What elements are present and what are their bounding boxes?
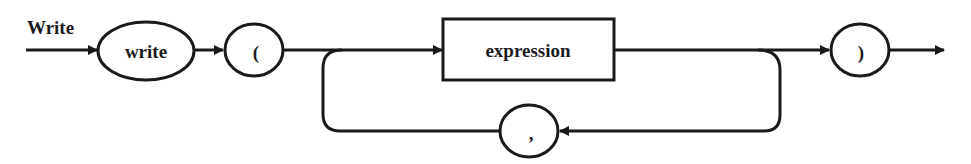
diagram-title: Write bbox=[27, 17, 74, 38]
node-expression: expression bbox=[443, 19, 614, 80]
node-comma: , bbox=[500, 105, 558, 157]
loop-return-path bbox=[323, 50, 500, 131]
node-rparen: ) bbox=[831, 24, 889, 76]
loop-back-path bbox=[560, 50, 780, 131]
node-write-label: write bbox=[125, 41, 167, 62]
node-expression-label: expression bbox=[485, 40, 571, 61]
node-lparen: ( bbox=[225, 24, 283, 76]
node-write: write bbox=[98, 22, 194, 80]
node-lparen-label: ( bbox=[253, 42, 259, 64]
node-rparen-label: ) bbox=[858, 42, 864, 64]
syntax-diagram: Write write ( expression , ) bbox=[0, 0, 971, 164]
node-comma-label: , bbox=[529, 123, 534, 144]
